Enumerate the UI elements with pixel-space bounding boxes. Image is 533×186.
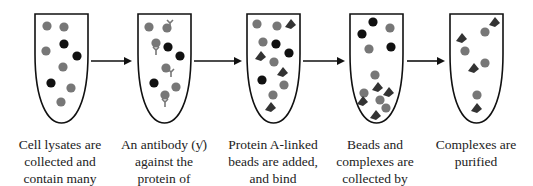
protein-gray <box>385 23 394 32</box>
protein-a-bead-icon <box>370 110 381 120</box>
protein-a-bead-icon <box>489 17 500 27</box>
protein-black <box>386 42 395 51</box>
protein-gray <box>42 21 51 30</box>
arrow-head-icon <box>337 57 345 65</box>
protein-a-bead-icon <box>265 102 276 112</box>
antibody-icon <box>168 69 174 77</box>
protein-gray <box>58 62 67 71</box>
protein-gray <box>370 70 379 79</box>
caption-step-2: An antibody (ƴ)against theprotein of <box>109 136 219 186</box>
protein-a-bead-icon <box>468 63 479 73</box>
protein-gray <box>258 37 267 46</box>
caption-step-4: Beads andcomplexes arecollected by <box>320 136 430 186</box>
antibody-icon <box>162 99 168 107</box>
tube-4 <box>350 14 403 123</box>
protein-black <box>175 51 184 60</box>
protein-gray <box>381 103 390 112</box>
protein-gray <box>364 44 373 53</box>
protein-black <box>46 78 55 87</box>
protein-gray <box>252 19 261 28</box>
caption-step-5: Complexes arepurified <box>421 136 531 170</box>
protein-black <box>271 39 280 48</box>
protein-black <box>72 51 81 60</box>
protein-gray <box>144 22 153 31</box>
arrow-head-icon <box>234 57 242 65</box>
protein-gray <box>375 95 384 104</box>
protein-gray <box>268 90 277 99</box>
protein-gray <box>41 46 50 55</box>
protein-a-bead-icon <box>255 51 266 61</box>
protein-black <box>149 78 158 87</box>
protein-a-bead-icon <box>471 103 482 113</box>
protein-gray <box>279 80 288 89</box>
protein-gray <box>160 90 169 99</box>
protein-black <box>257 75 266 84</box>
protein-a-bead-icon <box>285 19 296 29</box>
protein-gray <box>151 38 160 47</box>
caption-step-3: Protein A-linkedbeads are added,and bind <box>218 136 328 186</box>
protein-black <box>163 42 172 51</box>
protein-gray <box>480 27 489 36</box>
protein-gray <box>460 46 469 55</box>
protein-gray <box>359 88 368 97</box>
protein-a-bead-icon <box>372 82 383 92</box>
protein-black <box>284 48 293 57</box>
protein-gray <box>56 97 65 106</box>
protein-gray <box>171 82 180 91</box>
protein-gray <box>272 21 281 30</box>
protein-gray <box>472 90 481 99</box>
caption-step-1: Cell lysates arecollected andcontain man… <box>5 136 115 186</box>
protein-gray <box>269 57 278 66</box>
protein-gray <box>59 22 68 31</box>
protein-gray <box>66 83 75 92</box>
protein-a-bead-icon <box>277 67 288 77</box>
protein-a-bead-icon <box>383 87 394 97</box>
antibody-icon <box>153 47 159 55</box>
arrow-head-icon <box>124 57 132 65</box>
protein-a-bead-icon <box>357 96 368 106</box>
protein-black <box>357 29 366 38</box>
protein-a-bead-icon <box>456 33 467 43</box>
protein-black <box>368 17 377 26</box>
arrow-head-icon <box>437 57 445 65</box>
protein-black <box>59 39 68 48</box>
protein-gray <box>480 58 489 67</box>
